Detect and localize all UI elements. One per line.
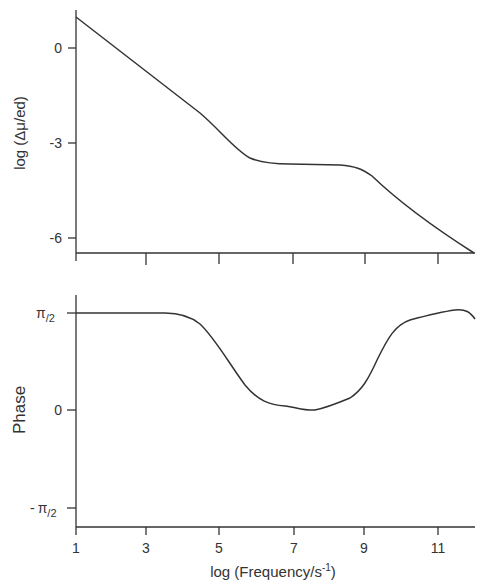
top-y-axis-title: log (Δμ/ed) <box>11 96 28 170</box>
x-tick-label: 9 <box>360 540 368 556</box>
phase-curve <box>76 310 475 410</box>
bottom-plot: π/2 0 -π/2 Phase 1 3 5 7 9 11 log (Frequ… <box>10 295 475 580</box>
top-plot: 0 -3 -6 log (Δμ/ed) <box>11 10 475 265</box>
top-curve <box>76 17 474 253</box>
phase-tick-zero: 0 <box>54 402 62 418</box>
chart-figure: 0 -3 -6 log (Δμ/ed) π/2 0 -π/2 Phase 1 3… <box>0 0 485 587</box>
top-y-tick-label: -3 <box>50 135 63 151</box>
x-tick-label: 3 <box>142 540 150 556</box>
top-y-tick-label: 0 <box>54 40 62 56</box>
bottom-y-axis-title: Phase <box>10 386 29 434</box>
x-tick-label: 11 <box>431 540 446 556</box>
x-axis-title: log (Frequency/s-1) <box>210 562 336 580</box>
phase-tick-neg-pi-half: -π/2 <box>30 500 57 519</box>
phase-tick-pi-half: π/2 <box>36 305 55 324</box>
x-tick-label: 5 <box>215 540 223 556</box>
x-tick-label: 7 <box>290 540 298 556</box>
x-tick-label: 1 <box>72 540 80 556</box>
top-y-tick-label: -6 <box>50 230 63 246</box>
